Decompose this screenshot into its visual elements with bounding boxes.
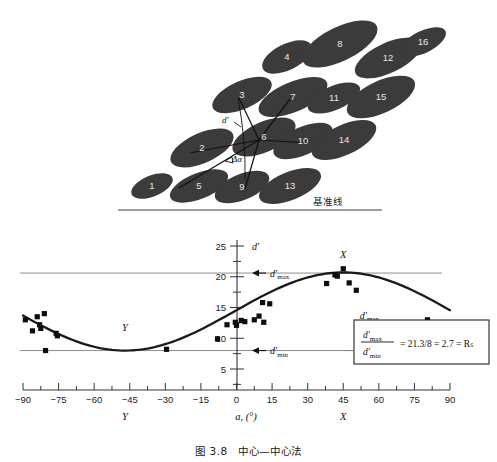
y-tick-label: 5 <box>221 364 226 375</box>
x-tick-label: 45 <box>338 394 349 405</box>
data-point <box>234 323 239 328</box>
x-axis-region-label-y: Y <box>122 411 129 422</box>
data-point <box>55 333 60 338</box>
formula-numerator-sub: max <box>370 335 383 343</box>
x-tick-label: 75 <box>409 394 420 405</box>
figure-caption: 图 3.8 中心—中心法 <box>0 443 497 458</box>
x-tick-label: 30 <box>302 394 313 405</box>
x-tick-label: −60 <box>86 394 102 405</box>
x-tick-label: −75 <box>51 394 67 405</box>
dmax-arrow <box>252 270 259 277</box>
formula-rhs: = 21.3/8 = 2.7 = Rₛ <box>400 339 474 349</box>
y-axis-symbol: d′ <box>252 241 260 252</box>
dmin-label-sub: min <box>277 351 288 359</box>
dmax-label-sub: max <box>277 273 290 281</box>
data-point <box>215 336 220 341</box>
data-point <box>324 281 329 286</box>
data-point <box>347 280 352 285</box>
data-point <box>43 348 48 353</box>
data-point <box>335 274 340 279</box>
data-point <box>35 314 40 319</box>
data-point <box>354 288 359 293</box>
dmin-label: d′min <box>270 345 289 359</box>
x-tick-label: 90 <box>445 394 456 405</box>
peak-marker-x: X <box>339 249 347 260</box>
x-axis-region-label-x: X <box>339 411 347 422</box>
data-point <box>42 311 47 316</box>
dmax-label: d′max <box>270 268 290 282</box>
data-point <box>242 319 247 324</box>
x-axis-caption: a, (°) <box>235 411 257 423</box>
x-tick-label: 60 <box>374 394 385 405</box>
formula-denominator-sub: min <box>370 352 381 360</box>
data-point <box>252 317 257 322</box>
data-point <box>261 320 266 325</box>
dmin-arrow <box>252 347 259 354</box>
data-point <box>256 314 261 319</box>
data-point <box>224 322 229 327</box>
x-tick-label: 0 <box>234 394 239 405</box>
trough-marker-y: Y <box>122 322 129 333</box>
x-tick-label: −30 <box>157 394 173 405</box>
x-tick-label: −45 <box>122 394 138 405</box>
data-point <box>260 300 265 305</box>
x-tick-label: −90 <box>15 394 31 405</box>
y-tick-label: 25 <box>215 241 226 252</box>
dprime-vs-angle-chart: 510152025d′−90−75−60−45−30−1501530456075… <box>0 0 497 462</box>
x-tick-label: −15 <box>193 394 209 405</box>
data-point <box>267 301 272 306</box>
data-point <box>341 266 346 271</box>
data-point <box>38 326 43 331</box>
data-point <box>164 347 169 352</box>
x-tick-label: 15 <box>267 394 278 405</box>
y-tick-label: 15 <box>215 302 226 313</box>
data-point <box>30 328 35 333</box>
data-point <box>23 317 28 322</box>
y-tick-label: 20 <box>215 271 226 282</box>
figure-root: d′Δα12345678910111213141516基准线 510152025… <box>0 0 497 462</box>
